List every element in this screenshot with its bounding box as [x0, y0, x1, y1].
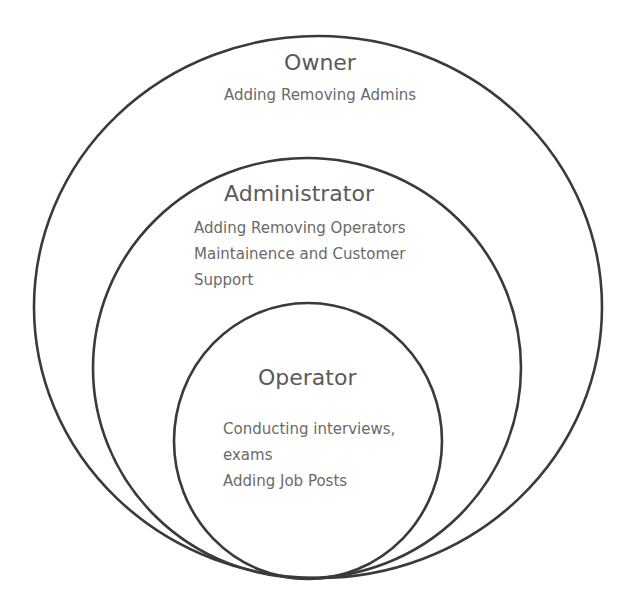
administrator-description-line-2: Maintainence and Customer [194, 242, 405, 266]
administrator-description-line-1: Adding Removing Operators [194, 216, 406, 240]
operator-title: Operator [258, 365, 356, 390]
operator-description-line-3: Adding Job Posts [223, 469, 347, 493]
operator-description-line-1: Conducting interviews, [223, 417, 395, 441]
operator-circle [174, 303, 442, 579]
administrator-title: Administrator [224, 181, 374, 206]
operator-description-line-2: exams [223, 443, 272, 467]
administrator-description-line-3: Support [194, 268, 253, 292]
owner-circle [34, 36, 602, 578]
owner-description: Adding Removing Admins [224, 83, 416, 107]
owner-title: Owner [284, 50, 356, 75]
